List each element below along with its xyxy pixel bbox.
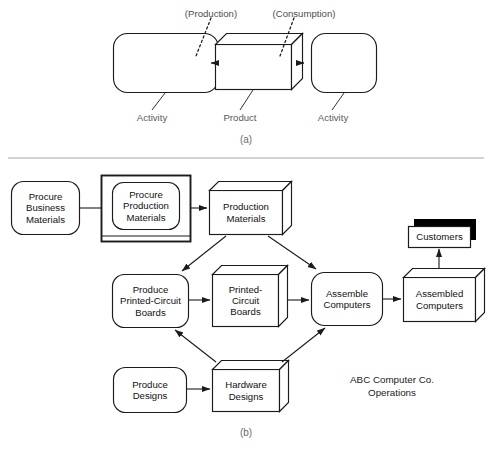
panel-a-callout-leader-product xyxy=(240,90,253,110)
diagram-vector-layer xyxy=(0,0,492,452)
node-shape-procure-business-materials xyxy=(12,182,80,235)
edge-hardware-to-assemble xyxy=(282,328,325,362)
panel-a-product-shape xyxy=(216,34,303,90)
panel-a-activity-left-shape xyxy=(114,34,219,93)
figure-root: (Production) (Consumption) Activity Prod… xyxy=(0,0,492,452)
node-shape-assemble-computers xyxy=(312,273,383,326)
panel-a-callout-leader-right xyxy=(332,93,344,110)
node-shape-assembled-computers xyxy=(404,269,485,322)
node-shape-printed-circuit-boards xyxy=(213,266,288,327)
panel-a-callout-leader-left xyxy=(152,93,165,110)
node-shape-customers xyxy=(409,219,477,248)
node-shape-produce-designs xyxy=(114,368,187,413)
node-shape-hardware-designs xyxy=(213,361,289,412)
panel-a-activity-right-shape xyxy=(312,34,377,93)
node-shape-produce-printed-circuit-boards xyxy=(113,275,189,328)
node-shape-production-materials xyxy=(210,182,292,235)
node-shape-procure-production-materials-frame xyxy=(102,176,191,242)
edge-pm-to-assemble xyxy=(268,236,316,269)
edge-hardware-to-produce-pcb xyxy=(175,330,216,362)
